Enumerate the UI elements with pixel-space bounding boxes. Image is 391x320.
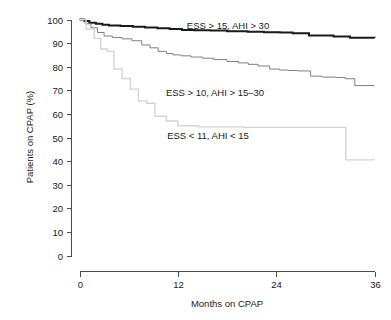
y-tick-label: 0 [58, 251, 63, 262]
y-tick-label: 30 [52, 180, 63, 191]
kaplan-meier-plot: 0102030405060708090100 0122436 ESS > 15,… [0, 0, 391, 320]
y-tick-label: 40 [52, 156, 63, 167]
y-tick-label: 100 [47, 15, 63, 26]
series-annotation-1: ESS > 15, AHI > 30 [187, 20, 269, 31]
y-tick-label: 80 [52, 62, 63, 73]
y-tick-label: 50 [52, 133, 63, 144]
x-axis-title: Months on CPAP [191, 298, 263, 309]
y-axis-title: Patients on CPAP (%) [24, 91, 35, 184]
y-tick-label: 70 [52, 85, 63, 96]
y-tick-label: 20 [52, 203, 63, 214]
x-tick-label: 0 [78, 279, 83, 290]
series-annotation-3: ESS < 11, AHI < 15 [167, 130, 249, 141]
chart-figure: 0102030405060708090100 0122436 ESS > 15,… [0, 0, 391, 320]
y-tick-label: 90 [52, 38, 63, 49]
x-axis-tick-labels: 0122436 [78, 279, 381, 290]
series-annotation-2: ESS > 10, AHI > 15–30 [166, 87, 264, 98]
x-tick-label: 24 [271, 279, 282, 290]
x-axis-ticks [81, 272, 376, 277]
y-tick-label: 10 [52, 227, 63, 238]
x-tick-label: 36 [370, 279, 381, 290]
series-annotations: ESS > 15, AHI > 30ESS > 10, AHI > 15–30E… [166, 20, 269, 141]
y-tick-label: 60 [52, 109, 63, 120]
x-tick-label: 12 [173, 279, 184, 290]
y-axis-ticks [67, 21, 72, 257]
y-axis-tick-labels: 0102030405060708090100 [47, 15, 63, 262]
